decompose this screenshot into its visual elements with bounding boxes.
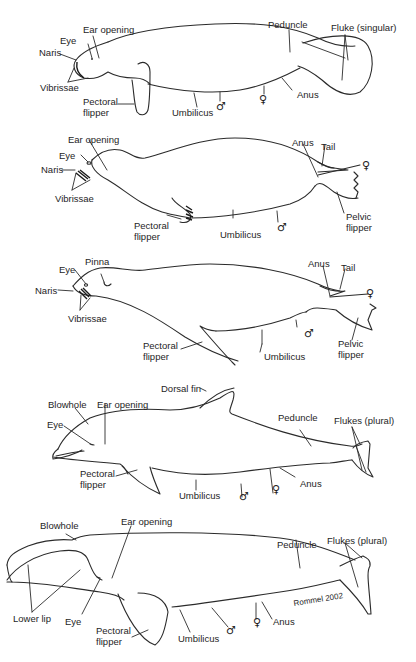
dolphin-female-symbol: ♀ — [272, 484, 280, 495]
dolphin-label-pectoral-flipper-line2: flipper — [80, 479, 106, 490]
whale-label-pectoral-flipper-line2: flipper — [96, 636, 122, 647]
dolphin-label-blowhole: Blowhole — [48, 399, 87, 410]
seal-label-eye: Eye — [59, 150, 75, 161]
sea-lion-label-umbilicus: Umbilicus — [264, 351, 305, 362]
sea-lion-label-eye: Eye — [59, 264, 75, 275]
sea-lion-label-tail: Tail — [341, 262, 355, 273]
seal-label-pectoral-flipper-line2: flipper — [134, 231, 160, 242]
whale-male-symbol: ♂ — [226, 625, 236, 636]
manatee-male-symbol: ♂ — [216, 101, 226, 112]
seal-label-ear-opening: Ear opening — [68, 134, 119, 145]
whale-female-symbol: ♀ — [253, 617, 261, 628]
seal-label-vibrissae: Vibrissae — [55, 193, 94, 204]
sea-lion-label-naris: Naris — [35, 285, 57, 296]
sea-lion-male-symbol: ♂ — [304, 328, 314, 339]
whale-label-eye: Eye — [65, 616, 81, 627]
manatee-label-ear-opening: Ear opening — [83, 24, 134, 35]
seal-drawing — [62, 138, 360, 223]
dolphin-label-dorsal-fin: Dorsal fin — [161, 383, 201, 394]
seal-male-symbol: ♂ — [277, 222, 287, 233]
whale-label-ear-opening: Ear opening — [121, 516, 172, 527]
whale-label-umbilicus: Umbilicus — [178, 633, 219, 644]
manatee-label-umbilicus: Umbilicus — [172, 107, 213, 118]
marine-mammal-anatomy-figure: Ear opening Eye Naris Vibrissae Pectoral… — [0, 0, 416, 662]
dolphin-label-umbilicus: Umbilicus — [179, 490, 220, 501]
whale-label-lower-lip: Lower lip — [13, 613, 51, 624]
manatee-label-pectoral-flipper-line1: Pectoral — [83, 96, 118, 107]
seal-label-tail: Tail — [321, 141, 335, 152]
sea-lion-label-anus: Anus — [308, 258, 330, 269]
seal-label-pelvic-flipper-line2: flipper — [346, 222, 372, 233]
manatee-label-vibrissae: Vibrissae — [40, 82, 79, 93]
dolphin-label-ear-opening: Ear opening — [97, 399, 148, 410]
seal-label-pelvic-flipper-line1: Pelvic — [346, 211, 371, 222]
dolphin-male-symbol: ♂ — [239, 491, 249, 502]
dolphin-label-eye: Eye — [47, 419, 63, 430]
seal-label-naris: Naris — [41, 164, 63, 175]
manatee-label-fluke: Fluke (singular) — [331, 22, 396, 33]
manatee-label-anus: Anus — [297, 89, 319, 100]
anatomy-drawings — [0, 0, 416, 662]
sea-lion-label-vibrissae: Vibrissae — [68, 313, 107, 324]
manatee-label-peduncle: Peduncle — [268, 19, 308, 30]
sea-lion-label-pelvic-flipper-line2: flipper — [338, 349, 364, 360]
sea-lion-label-pectoral-flipper-line1: Pectoral — [143, 340, 178, 351]
whale-label-peduncle: Peduncle — [277, 539, 317, 550]
whale-label-pectoral-flipper-line1: Pectoral — [96, 625, 131, 636]
seal-female-symbol: ♀ — [362, 160, 370, 171]
manatee-label-naris: Naris — [39, 47, 61, 58]
dolphin-label-pectoral-flipper-line1: Pectoral — [80, 468, 115, 479]
seal-label-anus: Anus — [292, 137, 314, 148]
sea-lion-female-symbol: ♀ — [366, 288, 374, 299]
whale-label-anus: Anus — [273, 616, 295, 627]
sea-lion-label-pectoral-flipper-line2: flipper — [143, 351, 169, 362]
whale-label-blowhole: Blowhole — [40, 520, 79, 531]
seal-label-umbilicus: Umbilicus — [220, 229, 261, 240]
sea-lion-label-pinna: Pinna — [85, 256, 109, 267]
seal-label-pectoral-flipper-line1: Pectoral — [134, 220, 169, 231]
whale-label-flukes: Flukes (plural) — [327, 535, 387, 546]
sea-lion-label-pelvic-flipper-line1: Pelvic — [338, 338, 363, 349]
dolphin-label-anus: Anus — [300, 478, 322, 489]
dolphin-label-peduncle: Peduncle — [278, 412, 318, 423]
manatee-female-symbol: ♀ — [259, 94, 267, 105]
manatee-label-pectoral-flipper-line2: flipper — [83, 107, 109, 118]
dolphin-label-flukes: Flukes (plural) — [334, 415, 394, 426]
manatee-label-eye: Eye — [60, 35, 76, 46]
